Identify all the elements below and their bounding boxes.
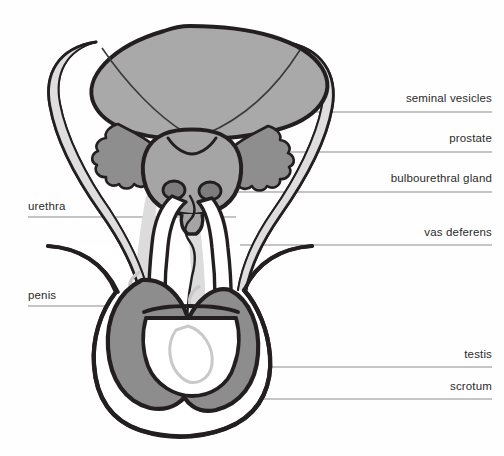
label-urethra: urethra: [28, 200, 138, 213]
anatomy-diagram-figure: seminal vesicles prostate bulbourethral …: [0, 0, 504, 456]
label-testis: testis: [388, 348, 492, 361]
label-seminal-vesicles: seminal vesicles: [388, 92, 492, 105]
bladder-shape: [91, 26, 327, 139]
label-prostate: prostate: [388, 132, 492, 145]
label-penis: penis: [28, 289, 138, 302]
label-scrotum: scrotum: [388, 380, 492, 393]
label-bulbourethral-gland: bulbourethral gland: [362, 172, 492, 185]
label-vas-deferens: vas deferens: [388, 226, 492, 239]
